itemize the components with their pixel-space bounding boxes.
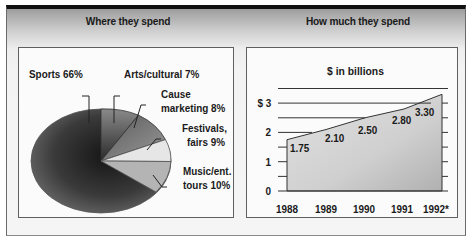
data-label-1991: 2.80 — [392, 114, 411, 127]
x-label-1988: 1988 — [276, 203, 298, 216]
x-label-1992: 1992* — [423, 203, 449, 216]
data-label-1988: 1.75 — [290, 142, 309, 155]
label-festivals-line2: fairs 9% — [187, 136, 225, 149]
label-cause-marketing-line2: marketing 8% — [161, 102, 225, 115]
area-chart-panel: $ in billions 0 1 2 $ 3 1.75 2.10 2.50 — [246, 47, 458, 218]
y-tick-3: $ 3 — [257, 97, 271, 110]
y-tick-2: 2 — [265, 126, 271, 139]
label-cause-marketing-line1: Cause — [161, 88, 191, 101]
data-label-1990: 2.50 — [358, 124, 377, 137]
label-sports: Sports 66% — [29, 68, 83, 81]
y-tick-0: 0 — [265, 185, 271, 198]
area-chart — [247, 48, 459, 219]
pie-section-title: Where they spend — [75, 15, 181, 27]
label-arts-cultural: Arts/cultural 7% — [124, 68, 199, 81]
data-label-1992: 3.30 — [415, 106, 434, 119]
label-festivals-line1: Festivals, — [182, 122, 227, 135]
label-music-line1: Music/ent. — [183, 165, 231, 178]
data-label-1989: 2.10 — [325, 132, 344, 145]
area-section-title: How much they spend — [301, 15, 415, 27]
x-label-1990: 1990 — [353, 203, 375, 216]
pie-chart-panel: Sports 66% Arts/cultural 7% Cause market… — [18, 47, 234, 218]
y-tick-1: 1 — [265, 156, 271, 169]
label-music-line2: tours 10% — [183, 179, 230, 192]
x-label-1989: 1989 — [315, 203, 337, 216]
x-label-1991: 1991 — [391, 203, 413, 216]
